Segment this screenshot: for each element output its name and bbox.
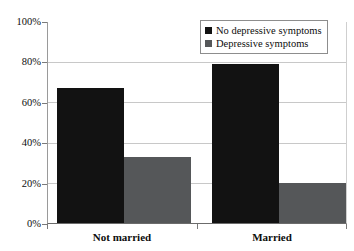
legend-label-no-depressive: No depressive symptoms [216, 24, 322, 37]
y-axis-label-40: 40% [0, 137, 41, 148]
legend-label-depressive: Depressive symptoms [216, 37, 308, 50]
x-axis-label-married: Married [197, 231, 347, 243]
bar-not-married-depressive [124, 157, 191, 223]
y-axis-label-80: 80% [0, 56, 41, 67]
bar-married-depressive [279, 183, 346, 223]
x-axis-label-not-married: Not married [47, 231, 197, 243]
bar-chart: 100% 80% 60% 40% 20% 0% Not married Marr… [0, 0, 354, 251]
gray-square-swatch-icon [205, 40, 212, 47]
x-tick-mark-middle [197, 224, 198, 229]
bar-not-married-no-depressive [57, 88, 124, 223]
y-axis-label-20: 20% [0, 178, 41, 189]
bar-married-no-depressive [212, 64, 279, 223]
gridline-80 [48, 62, 346, 63]
legend-item-depressive: Depressive symptoms [205, 37, 322, 50]
dark-square-swatch-icon [205, 27, 212, 34]
legend: No depressive symptoms Depressive sympto… [200, 20, 328, 54]
x-tick-mark-end [346, 224, 347, 229]
x-tick-mark-start [47, 224, 48, 229]
legend-item-no-depressive: No depressive symptoms [205, 24, 322, 37]
y-axis-label-0: 0% [0, 218, 41, 229]
y-axis-label-100: 100% [0, 16, 41, 27]
y-axis-label-60: 60% [0, 97, 41, 108]
